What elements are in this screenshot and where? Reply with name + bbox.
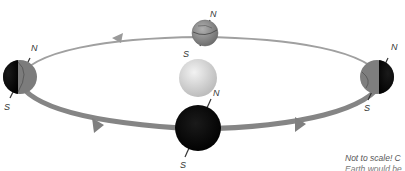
earth-top: N S	[183, 9, 218, 59]
scale-note-continued: Earth would be	[345, 164, 402, 171]
orbit-diagram: N S N S N S N S	[0, 0, 405, 171]
earth-bottom-north-label: N	[213, 88, 220, 98]
earth-left-south-label: S	[4, 102, 10, 112]
earth-right-north-label: N	[391, 42, 398, 52]
earth-bottom-south-label: S	[180, 160, 186, 170]
earth-right: N S	[360, 42, 399, 113]
earth-right-south-label: S	[364, 103, 370, 113]
sun	[179, 59, 217, 97]
scale-note: Not to scale! C	[345, 153, 401, 164]
earth-bottom: N S	[175, 88, 221, 170]
earth-top-north-label: N	[210, 9, 217, 19]
earth-left: N S	[0, 43, 38, 112]
earth-top-south-label: S	[183, 49, 189, 59]
earth-left-north-label: N	[31, 43, 38, 53]
